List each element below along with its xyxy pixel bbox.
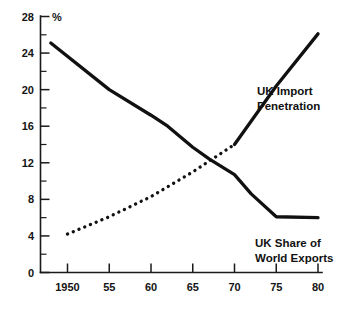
x-axis-tick-label: 65 bbox=[173, 282, 213, 293]
y-axis-tick-label: 8 bbox=[12, 194, 34, 205]
y-axis-ticks bbox=[41, 17, 50, 273]
chart-axes bbox=[41, 16, 323, 273]
y-axis-tick-label: 0 bbox=[12, 268, 34, 279]
y-axis-tick-label: 4 bbox=[12, 231, 34, 242]
x-axis-tick-label: 55 bbox=[89, 282, 129, 293]
y-axis-tick-label: 20 bbox=[12, 85, 34, 96]
y-axis-tick-label: 28 bbox=[12, 12, 34, 23]
y-axis-tick-label: 24 bbox=[12, 48, 34, 59]
series-label-uk-share-world-exports: UK Share of World Exports bbox=[255, 236, 333, 265]
x-axis-tick-label: 80 bbox=[298, 282, 338, 293]
chart-figure: % 0481216202428 1950556065707580 UK Impo… bbox=[0, 0, 362, 309]
series-line-uk-share-world-exports bbox=[51, 43, 318, 218]
chart-series-group bbox=[51, 34, 318, 234]
series-label-uk-import-penetration: UK Import Penetration bbox=[257, 84, 320, 113]
y-axis-tick-label: 16 bbox=[12, 121, 34, 132]
x-axis-tick-label: 1950 bbox=[48, 282, 88, 293]
x-axis-tick-label: 60 bbox=[131, 282, 171, 293]
y-axis-tick-label: 12 bbox=[12, 158, 34, 169]
y-axis-unit-label: % bbox=[52, 12, 62, 23]
x-axis-tick-label: 75 bbox=[256, 282, 296, 293]
x-axis-tick-label: 70 bbox=[215, 282, 255, 293]
